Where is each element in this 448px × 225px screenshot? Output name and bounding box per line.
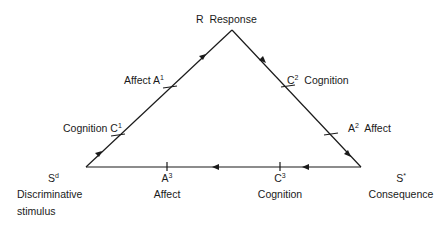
label-a2: A2 Affect — [348, 122, 391, 134]
arrow-left-icon — [212, 164, 219, 170]
label-c1: Cognition C1 — [63, 122, 122, 134]
arrow-up-icon — [199, 54, 206, 60]
arrow-up-icon — [95, 151, 102, 157]
response-label: Response — [209, 13, 256, 25]
label-a3-caption: Affect — [142, 188, 192, 200]
node-discriminative: Sd — [48, 172, 59, 184]
label-a3: A3 — [147, 172, 187, 184]
response-letter: R — [196, 13, 204, 25]
edge-sd-to-r — [86, 30, 232, 167]
arrow-left-icon — [302, 164, 309, 170]
label-c2: C2 Cognition — [287, 74, 349, 86]
label-c3: C3 — [260, 172, 300, 184]
node-response: R Response — [196, 13, 257, 25]
arrow-down-icon — [344, 150, 351, 157]
tick-c1 — [111, 134, 125, 136]
consequence-label: Consequence — [366, 188, 436, 200]
label-a1: Affect A1 — [124, 74, 164, 86]
discriminative-label-1: Discriminative — [17, 188, 82, 200]
edge-r-to-s — [232, 30, 361, 167]
discriminative-label-2: stimulus — [17, 205, 56, 217]
label-c3-caption: Cognition — [250, 188, 310, 200]
node-consequence: S* — [386, 172, 416, 184]
